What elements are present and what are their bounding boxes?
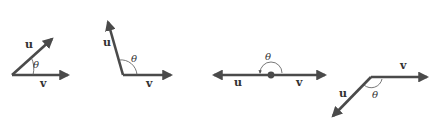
label-theta: θ [265, 51, 271, 62]
panel-obtuse-angle: u θ v [333, 59, 427, 116]
label-v: v [295, 76, 303, 89]
panel-wide-angle: u θ v [103, 22, 171, 90]
vector-angle-diagrams: u θ v u θ v θ u v u θ v [0, 0, 438, 123]
label-v: v [145, 77, 153, 90]
label-theta: θ [33, 59, 39, 70]
label-u: u [339, 87, 347, 100]
angle-arc [260, 62, 282, 73]
label-theta: θ [372, 89, 378, 100]
vertex-dot [268, 72, 275, 79]
arc-arrowhead [259, 70, 262, 74]
label-u: u [103, 36, 111, 49]
label-v: v [399, 59, 407, 72]
label-u: u [25, 38, 33, 51]
label-v: v [39, 77, 47, 90]
panel-straight-angle: θ u v [214, 51, 325, 89]
label-theta: θ [131, 53, 137, 64]
label-u: u [234, 76, 242, 89]
panel-acute-angle: u θ v [12, 38, 68, 90]
